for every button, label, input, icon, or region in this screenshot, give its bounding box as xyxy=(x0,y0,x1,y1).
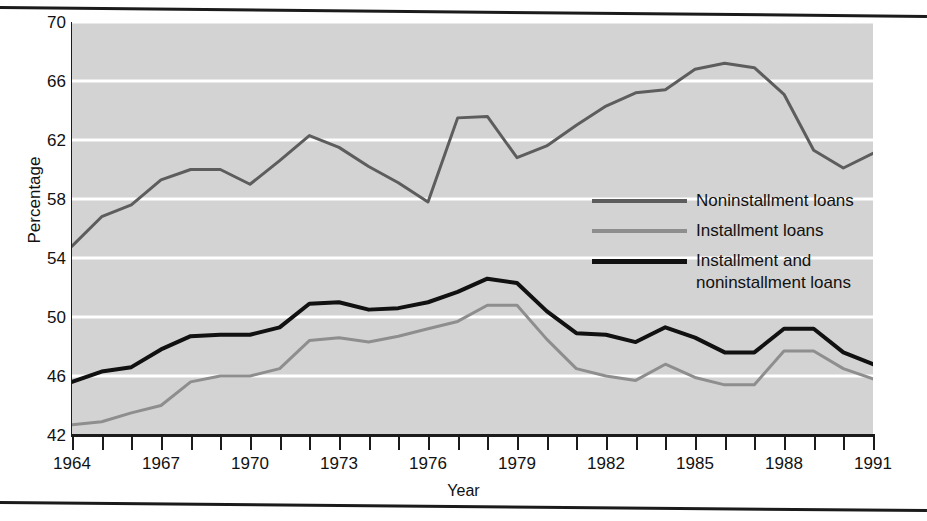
line-swatch-installment-icon xyxy=(592,229,687,233)
x-axis-tick xyxy=(131,437,133,450)
y-tick-label: 66 xyxy=(26,73,66,90)
legend-label: Noninstallment loans xyxy=(696,190,854,212)
x-axis-tick xyxy=(636,437,638,450)
x-axis-tick xyxy=(398,437,400,450)
x-axis-tick xyxy=(220,437,222,450)
x-tick-label: 1991 xyxy=(838,455,908,473)
series-line-1 xyxy=(72,305,873,424)
x-tick-label: 1988 xyxy=(749,455,819,473)
x-axis-tick xyxy=(754,437,756,450)
legend-item-installment: Installment loans xyxy=(592,220,922,250)
x-axis-tick xyxy=(725,437,727,450)
x-axis-title: Year xyxy=(0,482,927,500)
page-rule-bottom xyxy=(0,501,927,512)
x-axis-tick xyxy=(369,437,371,450)
x-axis-tick xyxy=(606,437,608,450)
figure-container: 70 66 62 58 54 50 46 42 Percentage 19641… xyxy=(0,0,927,521)
x-tick-label: 1985 xyxy=(660,455,730,473)
x-tick-label: 1967 xyxy=(126,455,196,473)
x-axis-tick xyxy=(517,437,519,450)
y-axis-tick-labels: 70 66 62 58 54 50 46 42 xyxy=(22,0,66,521)
legend-label: Installment loans xyxy=(696,220,824,242)
y-tick-label: 42 xyxy=(26,427,66,444)
x-tick-label: 1982 xyxy=(571,455,641,473)
x-axis-tick xyxy=(339,437,341,450)
x-tick-label: 1973 xyxy=(304,455,374,473)
x-tick-label: 1970 xyxy=(215,455,285,473)
x-axis-tick xyxy=(665,437,667,450)
x-axis-tick xyxy=(784,437,786,450)
page-rule-top xyxy=(0,6,927,18)
line-swatch-noninstallment-icon xyxy=(592,199,687,203)
x-axis-tick xyxy=(191,437,193,450)
legend-label: Installment and noninstallment loans xyxy=(696,250,851,294)
x-axis-tick xyxy=(547,437,549,450)
x-tick-label: 1964 xyxy=(37,455,107,473)
x-axis-tick xyxy=(458,437,460,450)
x-axis-tick xyxy=(695,437,697,450)
x-axis-tick xyxy=(102,437,104,450)
legend-item-both: Installment and noninstallment loans xyxy=(592,250,922,296)
x-axis-tick xyxy=(250,437,252,450)
x-tick-label: 1976 xyxy=(393,455,463,473)
y-tick-label: 46 xyxy=(26,368,66,385)
line-swatch-both-icon xyxy=(592,259,687,264)
x-axis-tick xyxy=(428,437,430,450)
x-axis-tick xyxy=(280,437,282,450)
y-axis-title: Percentage xyxy=(25,145,45,255)
legend: Noninstallment loans Installment loans I… xyxy=(592,190,922,296)
y-tick-label: 70 xyxy=(26,14,66,31)
legend-item-noninstallment: Noninstallment loans xyxy=(592,190,922,220)
x-axis-tick xyxy=(873,437,875,450)
x-axis-tick xyxy=(576,437,578,450)
y-tick-label: 50 xyxy=(26,309,66,326)
x-axis-tick xyxy=(309,437,311,450)
x-axis-tick xyxy=(72,437,74,450)
x-axis-tick xyxy=(487,437,489,450)
x-tick-label: 1979 xyxy=(482,455,552,473)
x-axis-tick xyxy=(161,437,163,450)
x-axis-tick xyxy=(814,437,816,450)
x-axis-tick xyxy=(843,437,845,450)
